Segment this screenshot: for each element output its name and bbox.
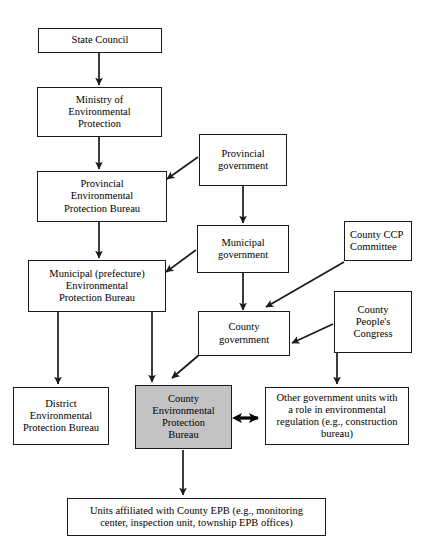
node-ministry-of-environmental-protection-label: Ministry ofEnvironmentalProtection [41,94,158,131]
node-county-environmental-protection-bureau[interactable]: CountyEnvironmentalProtectionBureau [135,385,232,449]
node-other-government-units-label: Other government units witha role in env… [269,392,405,441]
node-municipal-prefecture-environmental-protection-bureau-label: Municipal (prefecture)EnvironmentalProte… [32,268,162,305]
node-county-government-label: Countygovernment [202,321,286,345]
node-ministry-of-environmental-protection[interactable]: Ministry ofEnvironmentalProtection [37,87,162,137]
edge-municipal-government-to-municipal-epb [166,250,196,272]
node-affiliated-units-label: Units affiliated with County EPB (e.g., … [71,505,322,529]
node-county-ccp-committee[interactable]: County CCPCommittee [344,221,412,261]
node-other-government-units[interactable]: Other government units witha role in env… [265,387,409,445]
edge-provincial-government-to-provincial-epb [167,157,198,179]
node-municipal-government[interactable]: Municipalgovernment [197,225,289,273]
node-provincial-government-label: Provincialgovernment [203,148,283,172]
node-county-ccp-committee-label: County CCPCommittee [350,229,408,253]
node-provincial-environmental-protection-bureau-label: ProvincialEnvironmentalProtection Bureau [41,178,163,215]
edge-county-government-to-county-epb [172,355,199,378]
node-district-environmental-protection-bureau-label: DistrictEnvironmentalProtection Bureau [17,398,105,435]
edge-county-peoples-congress-to-county-government [292,324,333,343]
node-district-environmental-protection-bureau[interactable]: DistrictEnvironmentalProtection Bureau [13,387,109,445]
node-municipal-prefecture-environmental-protection-bureau[interactable]: Municipal (prefecture)EnvironmentalProte… [28,260,166,312]
node-municipal-government-label: Municipalgovernment [201,237,285,261]
node-county-peoples-congress-label: CountyPeople'sCongress [338,304,408,341]
node-affiliated-units[interactable]: Units affiliated with County EPB (e.g., … [67,498,326,536]
node-county-government[interactable]: Countygovernment [198,311,290,356]
org-chart-diagram: State Council Ministry ofEnvironmentalPr… [0,0,431,553]
node-state-council-label: State Council [42,34,158,46]
node-state-council[interactable]: State Council [38,28,162,53]
node-county-environmental-protection-bureau-label: CountyEnvironmentalProtectionBureau [139,393,228,442]
node-provincial-government[interactable]: Provincialgovernment [199,134,287,186]
node-county-peoples-congress[interactable]: CountyPeople'sCongress [334,291,412,353]
node-provincial-environmental-protection-bureau[interactable]: ProvincialEnvironmentalProtection Bureau [37,171,167,222]
